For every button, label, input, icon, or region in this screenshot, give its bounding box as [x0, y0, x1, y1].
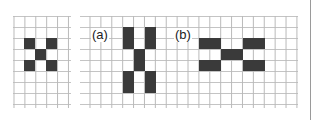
panel-label-b: (b) — [174, 28, 192, 42]
filled-cell-a — [123, 82, 134, 93]
filled-cell-reference — [46, 60, 57, 71]
filled-cell-b — [254, 38, 265, 49]
filled-cell-reference — [24, 60, 35, 71]
filled-cell-a — [145, 27, 156, 38]
right-border — [310, 0, 311, 120]
filled-cell-b — [210, 60, 221, 71]
filled-cell-b — [232, 49, 243, 60]
filled-cell-a — [134, 60, 145, 71]
filled-cell-reference — [35, 49, 46, 60]
filled-cell-reference — [24, 38, 35, 49]
filled-cell-a — [123, 38, 134, 49]
panel-label-a: (a) — [91, 28, 109, 42]
filled-cell-a — [134, 49, 145, 60]
filled-cell-a — [123, 71, 134, 82]
filled-cell-a — [123, 27, 134, 38]
filled-cell-a — [145, 38, 156, 49]
filled-cell-b — [254, 60, 265, 71]
filled-cell-b — [210, 38, 221, 49]
filled-cell-b — [199, 38, 210, 49]
filled-cell-a — [145, 82, 156, 93]
filled-cell-b — [243, 60, 254, 71]
reference-grid — [13, 16, 71, 108]
filled-cell-b — [243, 38, 254, 49]
filled-cell-b — [221, 49, 232, 60]
filled-cell-a — [145, 71, 156, 82]
filled-cell-reference — [46, 38, 57, 49]
filled-cell-b — [199, 60, 210, 71]
